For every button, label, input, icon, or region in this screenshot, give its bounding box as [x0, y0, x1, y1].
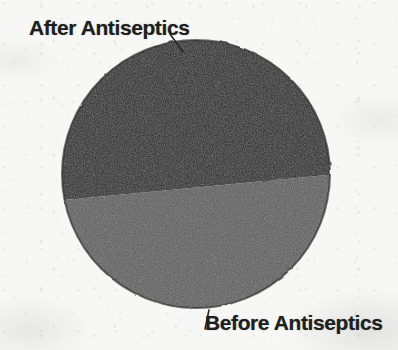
pie-chart-figure: After Antiseptics Before Antiseptics	[0, 0, 398, 350]
pie-label-after-antiseptics: After Antiseptics	[29, 17, 189, 38]
pie-label-before-antiseptics: Before Antiseptics	[205, 312, 383, 333]
pie-chart-graphic	[0, 0, 398, 350]
pie-slice-after-antiseptics	[54, 28, 338, 201]
